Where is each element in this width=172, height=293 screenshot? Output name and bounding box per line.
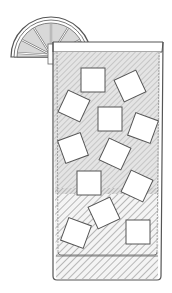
- glass-base: [50, 256, 165, 280]
- ice-cube: [81, 68, 105, 92]
- cocktail-illustration: [0, 0, 172, 293]
- ice-cube: [126, 220, 150, 244]
- ice-cube: [77, 171, 101, 195]
- cocktail-svg: [0, 0, 172, 293]
- ice-cube: [98, 107, 122, 131]
